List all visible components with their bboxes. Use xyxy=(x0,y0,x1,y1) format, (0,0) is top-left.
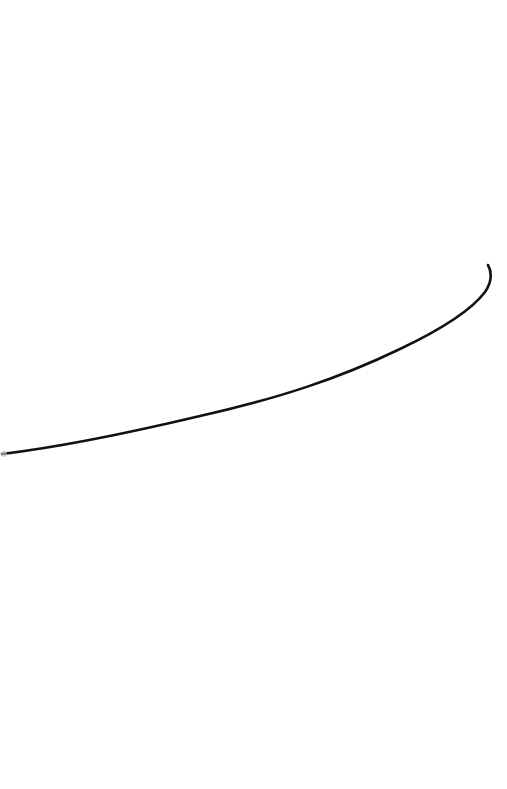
hand-drawn-curve xyxy=(2,265,491,454)
drawing-canvas[interactable] xyxy=(0,0,507,789)
stroke-start-marker xyxy=(1,451,7,457)
stroke-layer xyxy=(0,0,507,789)
